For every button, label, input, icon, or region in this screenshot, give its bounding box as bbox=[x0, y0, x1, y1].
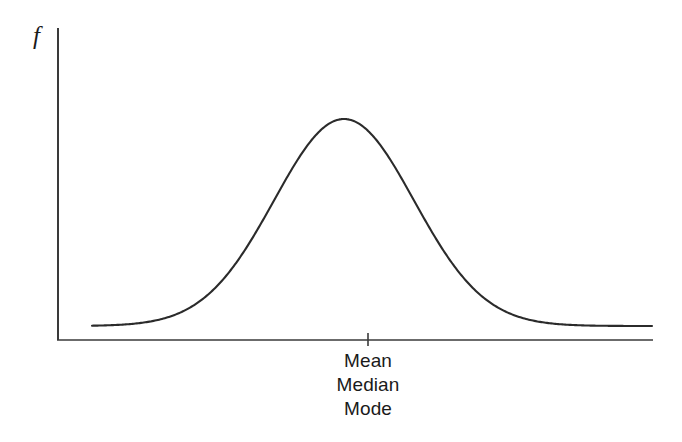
normal-distribution-figure: f Mean Median Mode bbox=[0, 0, 682, 442]
label-mean: Mean bbox=[268, 349, 468, 373]
distribution-curve bbox=[92, 119, 652, 326]
label-mode: Mode bbox=[268, 397, 468, 421]
label-median: Median bbox=[268, 373, 468, 397]
central-tendency-labels: Mean Median Mode bbox=[268, 349, 468, 421]
